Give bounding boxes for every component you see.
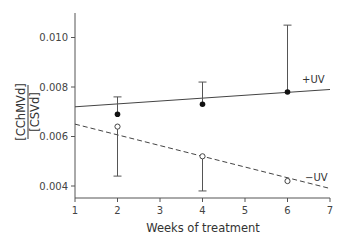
x-tick-label: 7 [327, 205, 333, 216]
y-tick-label: 0.010 [39, 32, 68, 43]
x-tick-label: 6 [284, 205, 290, 216]
y-tick-label: 0.004 [39, 181, 68, 192]
data-point [285, 89, 291, 95]
data-point [115, 111, 121, 117]
x-tick-label: 2 [114, 205, 120, 216]
x-tick-label: 4 [199, 205, 205, 216]
axes: 0.0040.0060.0080.0101234567 [39, 13, 333, 216]
y-tick-label: 0.006 [39, 131, 68, 142]
x-axis-title: Weeks of treatment [146, 221, 260, 235]
data-point [200, 154, 205, 159]
series-label-minus-uv: −UV [305, 172, 328, 183]
x-tick-label: 1 [72, 205, 78, 216]
chart: 0.0040.0060.0080.0101234567 Weeks of tre… [0, 0, 344, 240]
y-axis-denominator: [CSVd] [28, 92, 42, 131]
data-point [285, 178, 290, 183]
series-plus-uv [75, 25, 330, 117]
y-axis-numerator: [CChMVd] [14, 83, 28, 140]
y-tick-label: 0.008 [39, 82, 68, 93]
series-layer [75, 25, 330, 191]
data-point [115, 124, 120, 129]
y-axis-title: [CChMVd] [CSVd] [14, 83, 42, 140]
series-minus-uv [75, 124, 330, 191]
x-tick-label: 3 [157, 205, 163, 216]
series-label-plus-uv: +UV [302, 74, 325, 85]
x-tick-label: 5 [242, 205, 248, 216]
data-point [200, 102, 206, 108]
